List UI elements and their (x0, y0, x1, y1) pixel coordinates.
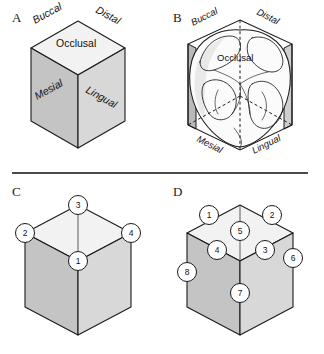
panel-b-label-occlusal: Occlusal (217, 52, 253, 63)
panel-a: A Buccal Distal Occlusal Mesial Lingual (12, 0, 125, 148)
panel-a-label-buccal: Buccal (30, 0, 64, 26)
panel-c-callout-2: 2 (16, 224, 35, 243)
panel-c-callout-3: 3 (69, 196, 88, 215)
panel-c-callout-1-number: 1 (76, 256, 81, 266)
panel-d-callout-5: 5 (231, 222, 250, 241)
panel-d-callout-1: 1 (200, 206, 219, 225)
panel-b: B Buccal Distal Occlusal Mes (173, 5, 292, 156)
panel-c-callout-2-number: 2 (23, 228, 28, 238)
panel-a-label-occlusal: Occlusal (56, 37, 96, 49)
panel-d-callout-4: 4 (208, 241, 227, 260)
panel-c-callout-1: 1 (69, 252, 88, 271)
panel-d-callout-6-number: 6 (291, 253, 296, 263)
figure-tooth-surface-cubes: A Buccal Distal Occlusal Mesial Lingual … (0, 0, 324, 354)
panel-d-callout-7: 7 (231, 284, 250, 303)
panel-a-label-distal: Distal (94, 3, 123, 27)
panel-c-callout-4: 4 (122, 224, 141, 243)
panel-d-callout-2-number: 2 (270, 210, 275, 220)
panel-b-label-distal: Distal (255, 6, 282, 27)
panel-d-callout-6: 6 (284, 249, 303, 268)
panel-c-callout-3-number: 3 (76, 200, 81, 210)
panel-d-callout-5-number: 5 (238, 226, 243, 236)
panel-d-callout-4-number: 4 (215, 245, 220, 255)
panel-d-callout-7-number: 7 (238, 288, 243, 298)
panel-c-letter: C (12, 184, 21, 199)
panel-c-callout-4-number: 4 (129, 228, 134, 238)
panel-d: D 1 2 3 4 5 6 7 (173, 184, 303, 335)
panel-c: C 1 2 3 4 (12, 184, 141, 335)
panel-d-callout-3: 3 (256, 241, 275, 260)
panel-d-callout-2: 2 (263, 206, 282, 225)
panel-d-letter: D (173, 184, 182, 199)
panel-d-callout-1-number: 1 (207, 210, 212, 220)
panel-a-letter: A (12, 10, 22, 25)
panel-d-callout-8: 8 (178, 263, 197, 282)
panel-b-letter: B (173, 10, 182, 25)
panel-b-label-buccal: Buccal (189, 5, 220, 28)
panel-d-callout-8-number: 8 (185, 267, 190, 277)
panel-d-callout-3-number: 3 (263, 245, 268, 255)
